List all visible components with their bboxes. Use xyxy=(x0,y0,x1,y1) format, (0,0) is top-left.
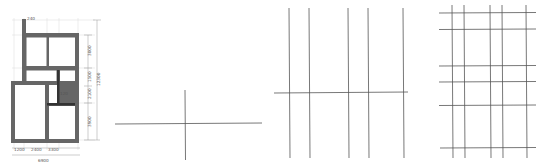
horizontal-axis-line xyxy=(439,105,536,106)
dim-right-top: 3000 xyxy=(87,45,92,56)
axes-step-2-panel xyxy=(274,8,408,158)
horizontal-axis-line xyxy=(274,92,408,93)
axes-grid-panel xyxy=(439,5,536,158)
axes-step-1-panel xyxy=(115,90,262,160)
vertical-axis-line xyxy=(289,8,290,158)
dim-bottom-total: 6900 xyxy=(38,158,49,163)
vertical-axis-line xyxy=(403,8,404,158)
vertical-axis-line xyxy=(452,5,453,158)
dim-wall-240: 240 xyxy=(27,16,35,21)
horizontal-axis-line xyxy=(439,82,536,83)
floor-plan-panel: 240 120 3000 1500 2100 3900 12300 1200 2… xyxy=(11,16,101,163)
vertical-axis-line xyxy=(309,8,310,158)
dim-inner-120: 120 xyxy=(60,91,68,96)
walls xyxy=(11,19,79,143)
dim-right-total: 12300 xyxy=(96,72,101,86)
dim-bottom-right: 3300 xyxy=(48,147,59,152)
dim-bottom-left: 1200 xyxy=(14,147,25,152)
vertical-axis-line xyxy=(368,8,369,158)
dim-right-bottom: 3900 xyxy=(87,116,92,127)
vertical-axis-line xyxy=(185,90,186,160)
vertical-axis-line xyxy=(348,8,349,158)
dim-right-mid1: 1500 xyxy=(87,71,92,82)
dim-right-mid2: 2100 xyxy=(87,88,92,99)
horizontal-axis-line xyxy=(439,13,536,14)
horizontal-axis-line xyxy=(440,148,536,149)
horizontal-axis-line xyxy=(439,29,536,30)
horizontal-axis-line xyxy=(439,66,536,67)
horizontal-axis-line xyxy=(115,123,262,124)
dim-bottom-mid: 2400 xyxy=(31,147,42,152)
